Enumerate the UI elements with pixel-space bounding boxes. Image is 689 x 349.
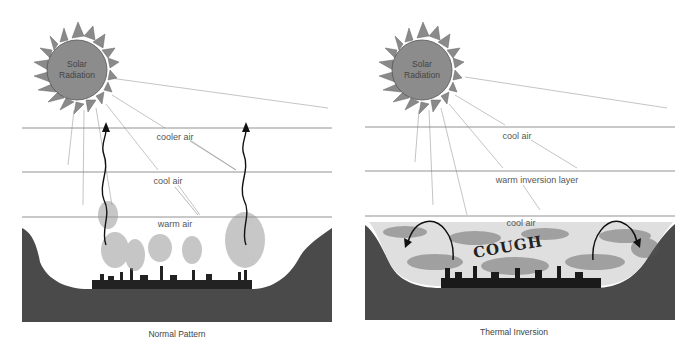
city-skyline <box>92 266 252 289</box>
caption-normal-pattern: Normal Pattern <box>148 329 205 339</box>
layer-label-cool-air-upper: cool air <box>502 131 531 141</box>
layer-label-warm-air: warm air <box>158 219 193 229</box>
sun-label: SolarRadiation <box>47 59 107 81</box>
layer-label-cool-air: cool air <box>153 176 182 186</box>
normal-pattern-illustration <box>0 0 345 349</box>
solar-rays <box>68 78 328 215</box>
smoke-plumes <box>98 201 265 271</box>
normal-pattern-diagram: SolarRadiation cooler air cool air warm … <box>0 0 345 349</box>
solar-rays <box>415 77 667 215</box>
layer-label-cool-air-lower: cool air <box>506 218 535 228</box>
layer-label-warm-inversion-layer: warm inversion layer <box>496 175 579 185</box>
layer-label-cooler-air: cooler air <box>156 132 193 142</box>
sun-label: SolarRadiation <box>392 59 452 81</box>
caption-thermal-inversion: Thermal Inversion <box>480 327 548 337</box>
thermal-inversion-diagram: SolarRadiation cool air warm inversion l… <box>345 0 689 349</box>
